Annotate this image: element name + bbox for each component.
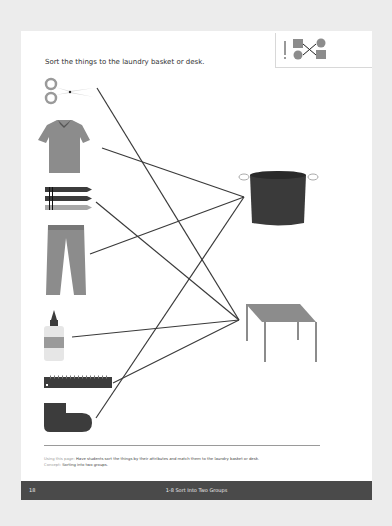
concept-label: Concept: (44, 462, 61, 467)
line-sock-basket (96, 197, 244, 418)
concept-text: Sorting into two groups. (62, 462, 108, 467)
matching-artwork (0, 0, 392, 526)
line-ruler-desk (113, 320, 239, 383)
pants-icon[interactable] (46, 225, 86, 295)
teacher-notes: Using this page: Have students sort the … (44, 456, 259, 468)
glue-bottle-icon[interactable] (44, 310, 64, 361)
notes-divider (44, 445, 320, 446)
concept-note: Concept: Sorting into two groups. (44, 462, 259, 468)
scissors-icon[interactable] (46, 79, 94, 103)
footer-title: 1-8 Sort Into Two Groups (21, 487, 372, 493)
using-text: Have students sort the things by their a… (76, 456, 259, 461)
ruler-icon[interactable] (44, 377, 112, 388)
laundry-basket-icon[interactable] (239, 171, 318, 226)
sock-icon[interactable] (44, 403, 92, 432)
line-scissors-desk (97, 88, 239, 320)
answer-lines (72, 88, 244, 418)
using-label: Using this page: (44, 456, 75, 461)
line-shirt-basket (102, 148, 244, 197)
line-crayons-desk (96, 202, 239, 320)
desk-icon[interactable] (246, 304, 317, 362)
footer-bar: 18 1-8 Sort Into Two Groups (21, 481, 372, 500)
shirt-icon[interactable] (38, 120, 90, 173)
crayons-icon[interactable] (45, 187, 92, 210)
line-pants-basket (90, 197, 244, 254)
